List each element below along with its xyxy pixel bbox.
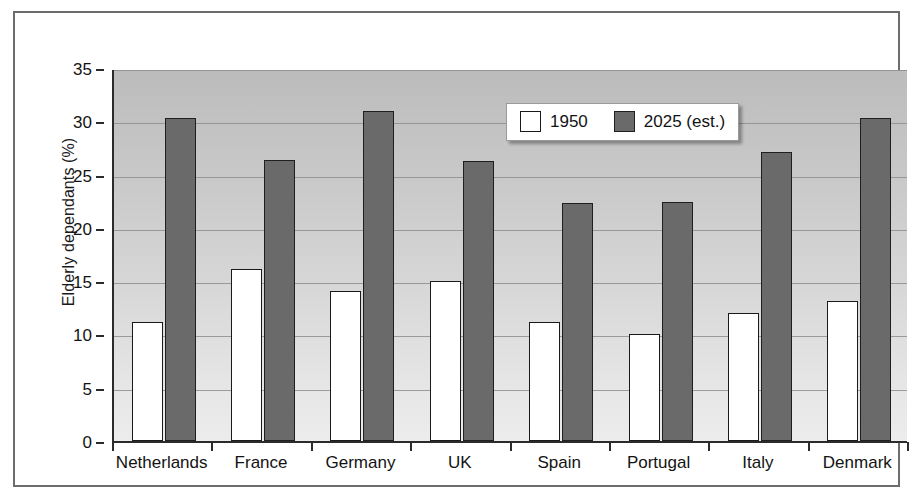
- x-axis-label-italy: Italy: [742, 453, 773, 473]
- legend-entry-2025est: 2025 (est.): [614, 111, 725, 132]
- x-tick-mark: [907, 442, 909, 451]
- x-axis-label-netherlands: Netherlands: [116, 453, 208, 473]
- x-tick-mark: [510, 442, 512, 451]
- y-tick-mark-15: [96, 282, 104, 284]
- y-axis-ticks: 05101520253035: [62, 70, 104, 441]
- y-tick-label: 15: [52, 273, 92, 293]
- x-tick-mark: [808, 442, 810, 451]
- legend-entry-1950: 1950: [520, 111, 588, 132]
- x-axis-labels: NetherlandsFranceGermanyUKSpainPortugalI…: [112, 453, 905, 483]
- x-axis-label-uk: UK: [448, 453, 472, 473]
- bar-portugal-2025est: [662, 202, 693, 441]
- x-axis-label-portugal: Portugal: [627, 453, 690, 473]
- bar-portugal-1950: [629, 334, 660, 441]
- y-tick-mark-5: [96, 389, 104, 391]
- bar-denmark-1950: [827, 301, 858, 441]
- x-axis-label-germany: Germany: [325, 453, 395, 473]
- x-tick-mark: [410, 442, 412, 451]
- bar-france-2025est: [264, 160, 295, 441]
- legend-label: 2025 (est.): [644, 112, 725, 132]
- x-tick-mark: [112, 442, 114, 451]
- y-tick-label: 25: [52, 167, 92, 187]
- bar-uk-1950: [430, 281, 461, 441]
- y-tick-mark-20: [96, 229, 104, 231]
- x-axis-ticks: [112, 442, 907, 452]
- y-tick-mark-35: [96, 69, 104, 71]
- bar-spain-2025est: [562, 203, 593, 441]
- y-tick-label: 35: [52, 60, 92, 80]
- y-tick-label: 20: [52, 220, 92, 240]
- legend-swatch-icon: [520, 111, 541, 132]
- bar-germany-1950: [330, 291, 361, 441]
- bar-netherlands-1950: [132, 322, 163, 441]
- y-tick-label: 0: [52, 433, 92, 453]
- bar-spain-1950: [529, 322, 560, 441]
- y-tick-mark-30: [96, 122, 104, 124]
- x-axis-label-france: France: [235, 453, 288, 473]
- y-tick-label: 10: [52, 326, 92, 346]
- x-tick-mark: [708, 442, 710, 451]
- legend-swatch-icon: [614, 111, 635, 132]
- bar-denmark-2025est: [860, 118, 891, 441]
- bar-france-1950: [231, 269, 262, 441]
- y-tick-mark-0: [96, 442, 104, 444]
- bar-italy-2025est: [761, 152, 792, 441]
- y-tick-mark-25: [96, 176, 104, 178]
- x-tick-mark: [211, 442, 213, 451]
- bar-germany-2025est: [363, 111, 394, 441]
- x-tick-mark: [311, 442, 313, 451]
- chart-figure: Elderly dependants (%) 05101520253035 Ne…: [0, 0, 915, 503]
- y-tick-mark-10: [96, 335, 104, 337]
- bar-netherlands-2025est: [165, 118, 196, 441]
- legend-label: 1950: [550, 112, 588, 132]
- bar-italy-1950: [728, 313, 759, 441]
- y-tick-label: 5: [52, 380, 92, 400]
- y-tick-label: 30: [52, 113, 92, 133]
- gridline-35: [114, 70, 907, 71]
- x-axis-label-denmark: Denmark: [823, 453, 892, 473]
- bar-uk-2025est: [463, 161, 494, 441]
- x-axis-label-spain: Spain: [537, 453, 580, 473]
- x-tick-mark: [609, 442, 611, 451]
- chart-frame: Elderly dependants (%) 05101520253035 Ne…: [13, 11, 900, 487]
- chart-legend: 19502025 (est.): [506, 103, 739, 141]
